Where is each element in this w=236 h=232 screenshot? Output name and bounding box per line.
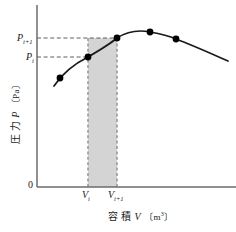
shaded-region — [88, 38, 117, 187]
x-tick-vi1-sub: i+1 — [114, 195, 123, 202]
pv-curve — [54, 31, 228, 86]
x-tick-label-vi: Vi — [82, 190, 90, 200]
y-axis-title-text: 圧 力 — [10, 121, 21, 145]
x-axis-unit-base: m — [153, 212, 160, 222]
data-point — [114, 35, 121, 42]
data-point — [173, 36, 180, 43]
y-axis-unit-base: Pa — [11, 89, 21, 99]
y-axis-title-symbol: P — [10, 111, 21, 118]
origin-label: 0 — [28, 180, 33, 190]
y-tick-pi1-sub: i+1 — [23, 38, 32, 45]
x-axis-title: 容 積 V 〔m3〕 — [108, 212, 174, 222]
y-tick-pi-sub: i — [32, 57, 34, 64]
x-tick-vi-sub: i — [88, 195, 90, 202]
x-axis-unit-close: 〕 — [164, 212, 173, 222]
y-axis-unit-close: 〕 — [11, 80, 21, 89]
x-tick-label-vi1: Vi+1 — [108, 190, 124, 200]
x-axis-title-text: 容 積 — [108, 211, 132, 222]
y-axis-unit-open: 〔 — [11, 99, 21, 108]
pressure-volume-chart: Pi+1 Pi 0 Vi Vi+1 容 積 V 〔m3〕 圧 力 P 〔Pa〕 — [0, 0, 236, 232]
data-point — [147, 29, 154, 36]
data-point — [85, 54, 92, 61]
x-axis-title-symbol: V — [135, 211, 142, 222]
data-point — [57, 75, 64, 82]
y-tick-label-pi: Pi — [26, 52, 34, 62]
y-axis-title: 圧 力 P 〔Pa〕 — [11, 62, 21, 162]
y-tick-label-pi1: Pi+1 — [17, 33, 33, 43]
